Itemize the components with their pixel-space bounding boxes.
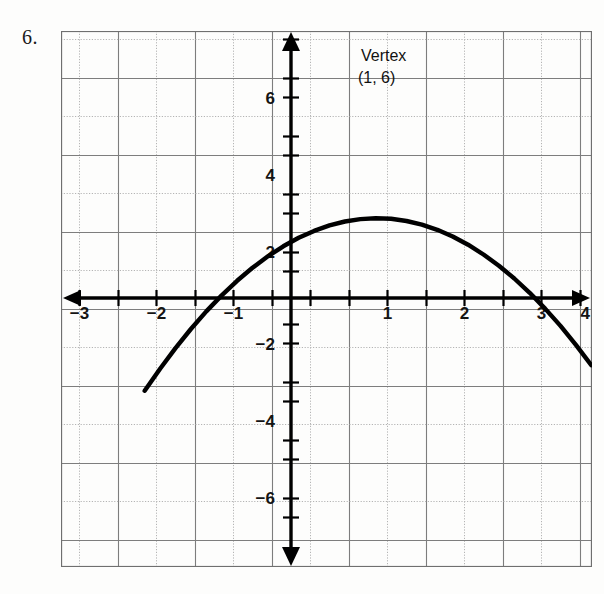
y-tick-label-4: 4 (266, 166, 276, 185)
y-tick-label--6: −6 (256, 489, 275, 508)
coordinate-plane-graph: −3 −2 −1 1 2 3 4 6 4 2 −2 −4 −6 Vertex (… (61, 31, 592, 567)
y-tick-label-6: 6 (266, 89, 275, 108)
y-tick-label--4: −4 (256, 412, 276, 431)
x-tick-label--1: −1 (224, 304, 243, 323)
x-tick-label--2: −2 (147, 304, 166, 323)
x-tick-label-2: 2 (460, 304, 469, 323)
graph-container: −3 −2 −1 1 2 3 4 6 4 2 −2 −4 −6 Vertex (… (61, 31, 592, 567)
vertex-label-title: Vertex (361, 47, 406, 64)
x-tick-label-1: 1 (383, 304, 392, 323)
x-tick-label-4: 4 (581, 304, 591, 323)
worksheet-page: 6. (0, 0, 604, 594)
vertex-label-point: (1, 6) (358, 69, 395, 86)
problem-number-label: 6. (22, 26, 38, 49)
y-tick-label--2: −2 (256, 335, 275, 354)
x-tick-label--3: −3 (70, 304, 89, 323)
